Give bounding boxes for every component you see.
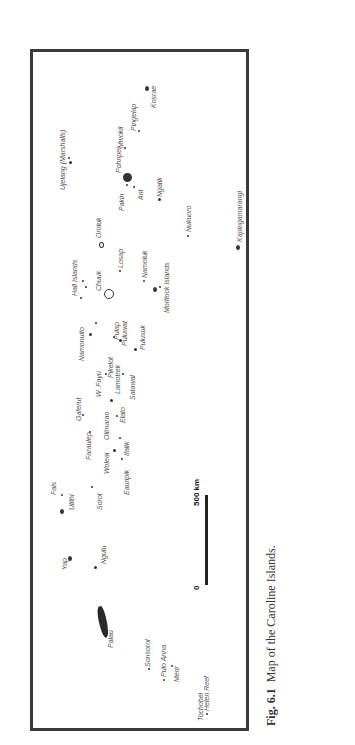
island-ant — [133, 186, 135, 188]
island-tochobei — [206, 713, 208, 715]
label-faraulep: Faraulep — [85, 432, 92, 460]
island-fais — [61, 494, 63, 496]
label-sonsorol: Sonsorol — [144, 639, 151, 667]
caption-number: Fig. 6.1 — [264, 688, 278, 726]
island-mortlock-2 — [159, 286, 161, 288]
label-namoluk: Namoluk — [141, 250, 148, 278]
label-palau: Palau — [107, 630, 114, 648]
island-hall-3 — [80, 297, 82, 299]
island-woleai — [113, 449, 116, 452]
island-hall — [82, 280, 84, 282]
island-namonuito — [89, 333, 92, 336]
island-gaferut — [82, 414, 84, 416]
label-chuuk: Chuuk — [95, 271, 102, 291]
label-puluwat: Puluwat — [121, 321, 128, 346]
label-ulithi: Ulithi — [68, 494, 75, 510]
island-ulithi — [60, 509, 64, 514]
label-puloanna: Pulo Anna — [160, 645, 167, 677]
island-yap — [68, 556, 72, 561]
label-ngatik: Ngatik — [156, 177, 163, 197]
label-elato: Elato — [119, 407, 126, 423]
label-helen: Helen Reef — [203, 676, 210, 711]
island-oroluk — [99, 242, 104, 248]
island-pohnpei — [123, 173, 132, 182]
island-olimarao — [116, 415, 118, 417]
label-ujelang: Ujelang (Marshalls) — [59, 130, 66, 190]
figure-caption: Fig. 6.1 Map of the Caroline Islands. — [265, 545, 277, 726]
island-ngatik — [158, 198, 161, 201]
island-pakin — [126, 184, 128, 186]
island-namonuito-2 — [95, 322, 97, 324]
island-kosrae — [145, 86, 149, 91]
label-pakin: Pakin — [118, 193, 125, 211]
label-merir: Merir — [173, 666, 180, 682]
scale-start-label: 0 — [193, 586, 201, 590]
island-hall-2 — [85, 286, 87, 288]
label-nukuoro: Nukuoro — [185, 206, 192, 232]
island-pulusuk — [134, 348, 137, 351]
label-namonuito: Namonuito — [78, 327, 85, 361]
caption-text: Map of the Caroline Islands. — [264, 545, 278, 682]
map-frame: Ujelang (Marshalls) Kosrae Pingelap Mwok… — [30, 49, 249, 731]
label-kosrae: Kosrae — [150, 86, 157, 108]
label-pingelap: Pingelap — [130, 104, 137, 131]
label-mortlock: Mortlock Islands — [163, 262, 170, 313]
label-yap: Yap — [61, 558, 68, 570]
island-ifalik — [119, 437, 121, 439]
island-chuuk — [104, 289, 114, 299]
label-mwokil: Mwokil — [117, 127, 124, 148]
label-eauripik: Eauripik — [123, 470, 130, 495]
island-satawal — [122, 373, 124, 375]
label-woleai: Woleai — [103, 453, 110, 474]
island-ujelang-2 — [68, 157, 70, 159]
island-ngulu — [94, 566, 97, 569]
label-pohnpei: Pohnpei — [115, 147, 122, 173]
label-olimarao: Olimarao — [103, 412, 110, 440]
scale-end-label: 500 km — [193, 479, 201, 506]
rotated-page: Ujelang (Marshalls) Kosrae Pingelap Mwok… — [0, 0, 355, 745]
island-eauripik — [121, 458, 123, 460]
label-sorol: Sorol — [96, 494, 103, 510]
label-ngulu: Ngulu — [100, 546, 107, 564]
label-gaferut: Gaferut — [75, 398, 82, 421]
island-mwokil — [124, 147, 126, 149]
label-wfayu: W. Fayu — [95, 371, 102, 397]
island-lamotrek — [110, 399, 113, 402]
island-pingelap — [138, 130, 140, 132]
label-kapingamarangi: Kapingamarangi — [236, 191, 243, 242]
label-ant: Ant — [137, 189, 144, 200]
label-fais: Fais — [50, 482, 57, 495]
island-ujelang — [69, 161, 72, 164]
island-sonsorol — [148, 668, 150, 670]
label-ifalik: Ifalik — [123, 442, 130, 456]
island-kapingamarangi — [236, 245, 240, 250]
island-wfayu — [105, 373, 107, 375]
label-pulusuk: Pulusuk — [139, 325, 146, 350]
island-mortlock — [153, 287, 157, 292]
island-nukuoro — [187, 235, 189, 237]
label-oroluk: Oroluk — [95, 217, 102, 238]
island-puloanna — [163, 679, 165, 681]
label-hall: Hall Islands — [71, 260, 78, 296]
scale-bar — [205, 495, 208, 585]
label-pulap: Pulap — [113, 322, 120, 340]
island-sorol — [91, 486, 93, 488]
label-satawal: Satawal — [129, 375, 136, 400]
island-namoluk — [143, 280, 145, 282]
island-losap — [119, 270, 121, 272]
label-lamotrek: Lamotrek — [114, 365, 121, 394]
label-pikelot: Pikelot — [107, 357, 114, 378]
label-losap: Losap — [117, 249, 124, 268]
